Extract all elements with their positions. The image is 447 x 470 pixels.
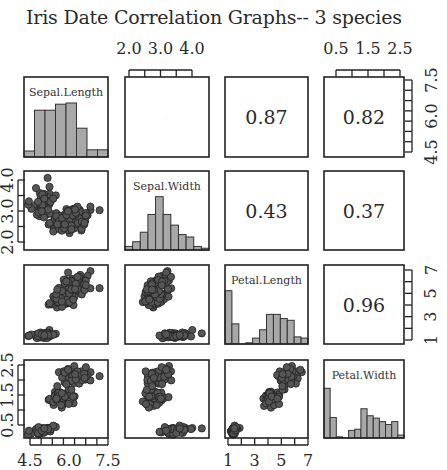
histogram-bar [35, 110, 46, 157]
diagonal-label: Petal.Width [332, 369, 397, 382]
histogram-bar [392, 422, 398, 438]
histogram-bar [24, 151, 35, 157]
tick-label: 5 [422, 288, 441, 298]
histogram-bar [355, 429, 361, 438]
histogram-bar [45, 110, 56, 157]
scatter-point [70, 393, 77, 400]
scatter-point [41, 425, 48, 432]
scatter-point [87, 203, 94, 210]
tick-label: 7 [422, 265, 441, 275]
tick-label: 4.0 [179, 39, 204, 58]
tick-label: 4.5 [17, 451, 42, 470]
scatter-point [82, 212, 89, 219]
scatter-point [142, 400, 149, 407]
histogram-bar [163, 214, 171, 250]
tick-label: 2.0 [116, 39, 141, 58]
scatter-point [149, 286, 156, 293]
diagonal-label: Petal.Length [231, 274, 302, 287]
tick-label: 4.0 [0, 167, 17, 192]
scatter-matrix-plot: Sepal.Length···0.870.82Sepal.Width0.430.… [0, 0, 447, 470]
histogram-bar [87, 150, 98, 157]
top-axis-petal-width: 0.51.52.5 [323, 39, 412, 77]
histogram-bar [260, 330, 267, 344]
right-axis-petal-length: 1357 [405, 265, 441, 345]
scatter-point [149, 383, 156, 390]
scatter-point [54, 383, 61, 390]
panel-r3-c3: Petal.Length [225, 265, 308, 344]
scatter-point [198, 330, 205, 337]
scatter-point [163, 366, 170, 373]
panel-r1-c1: Sepal.Length [24, 77, 108, 157]
histogram-bar [379, 422, 385, 438]
scatter-point [279, 383, 286, 390]
scatter-point [82, 282, 89, 289]
scatter-point [287, 381, 294, 388]
scatter-point [25, 198, 32, 205]
tick-label: 0.5 [323, 39, 348, 58]
scatter-point [32, 185, 39, 192]
scatter-point [65, 269, 72, 276]
tick-label: 2.5 [0, 352, 17, 377]
scatter-point [297, 366, 304, 373]
diagonal-label: Sepal.Width [133, 180, 201, 193]
scatter-point [279, 371, 286, 378]
histogram-bar [301, 338, 308, 344]
scatter-point [176, 425, 183, 432]
histogram-bar [77, 128, 88, 157]
scatter-point [61, 221, 68, 228]
scatter-point [159, 381, 166, 388]
panel-r2-c1 [24, 171, 108, 250]
diagonal-label: Sepal.Length [29, 86, 103, 99]
panel-r3-c2 [125, 265, 209, 344]
scatter-point [63, 381, 70, 388]
scatter-point [72, 371, 79, 378]
scatter-point [53, 395, 60, 402]
scatter-point [163, 269, 170, 276]
panel-r4-c3 [225, 360, 308, 438]
panel-r4-c4: Petal.Width [324, 360, 404, 438]
histogram-bar [280, 319, 287, 344]
tick-label: 3 [422, 312, 441, 322]
scatter-point [231, 425, 238, 432]
histogram-bar [294, 337, 301, 344]
scatter-point [50, 195, 57, 202]
histogram-bar [273, 314, 280, 344]
left-axis-petal-width: 0.51.52.5 [0, 352, 25, 437]
panel-r1-c2: ··· [125, 77, 209, 157]
scatter-point [82, 364, 89, 371]
scatter-point [58, 390, 65, 397]
panel-r2-c2: Sepal.Width [125, 171, 209, 250]
scatter-point [44, 174, 51, 181]
bottom-axis-petal-length: 1357 [223, 438, 313, 470]
scatter-point [157, 395, 164, 402]
scatter-point [146, 393, 153, 400]
scatter-point [274, 395, 281, 402]
tick-label: 2.0 [0, 229, 17, 254]
histogram-bar [287, 320, 294, 344]
panel-r1-c3: 0.87 [225, 77, 308, 157]
scatter-point [96, 373, 103, 380]
scatter-point [25, 332, 32, 339]
scatter-point [63, 278, 70, 285]
scatter-point [65, 400, 72, 407]
top-axis-sepal-width: 2.03.04.0 [116, 39, 204, 77]
scatter-point [65, 366, 72, 373]
histogram-bar [232, 324, 239, 344]
histogram-bar [330, 418, 336, 438]
scatter-point [41, 332, 48, 339]
panel-r3-c1 [24, 265, 108, 344]
tick-label: 6.0 [422, 103, 441, 128]
scatter-point [25, 427, 32, 434]
tick-label: 1.5 [355, 39, 380, 58]
scatter-point [283, 364, 290, 371]
tick-label: 6.0 [56, 451, 81, 470]
scatter-point [150, 374, 157, 381]
correlation-value: 0.96 [343, 294, 385, 316]
tick-label: 3.0 [148, 39, 173, 58]
histogram-bar [171, 225, 179, 250]
scatter-point [58, 298, 65, 305]
tick-label: 1 [223, 451, 233, 470]
histogram-bar [148, 214, 156, 250]
scatter-point [65, 208, 72, 215]
scatter-point [189, 326, 196, 333]
